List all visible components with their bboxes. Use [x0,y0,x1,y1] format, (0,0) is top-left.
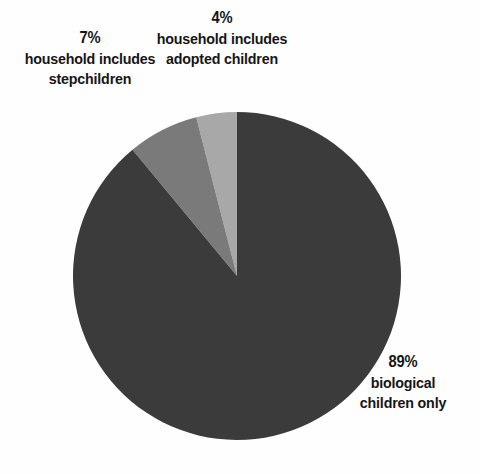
pie-label-stepchildren-line1: household includes [15,49,166,70]
pie-label-adopted: 4% household includes adopted children [152,8,292,70]
pie-label-adopted-percent: 4% [152,8,292,29]
pie-label-adopted-line1: household includes [152,29,292,50]
pie-label-biological-percent: 89% [336,352,470,373]
pie-label-biological-line1: biological [336,373,470,394]
pie-label-stepchildren-percent: 7% [15,28,166,49]
pie-label-stepchildren: 7% household includes stepchildren [15,28,166,90]
pie-label-adopted-line2: adopted children [152,49,292,70]
pie-chart: 7% household includes stepchildren 4% ho… [0,0,480,474]
pie-label-biological: 89% biological children only [336,352,470,414]
pie-label-biological-line2: children only [336,393,470,414]
pie-label-stepchildren-line2: stepchildren [15,69,166,90]
